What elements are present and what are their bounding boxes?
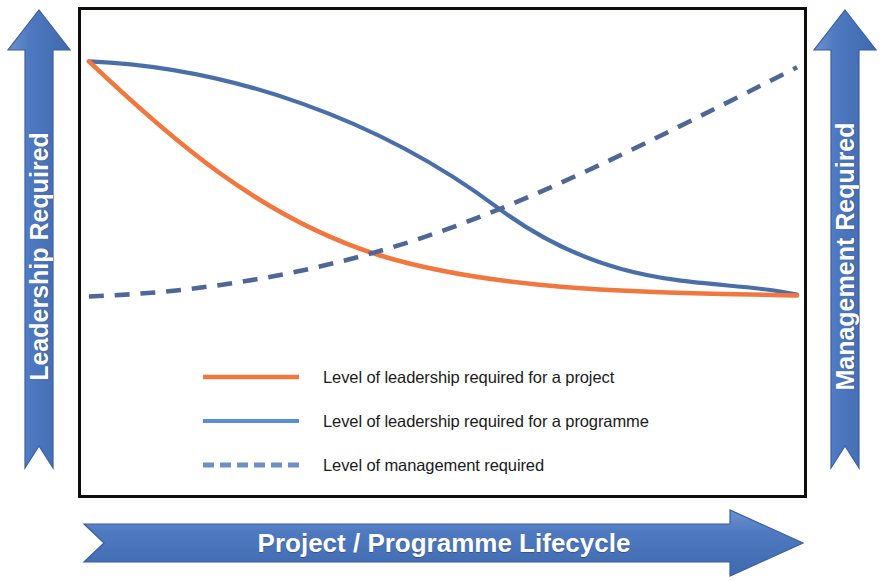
series-line-project [89,61,797,295]
legend-item: Level of leadership required for a progr… [201,399,761,443]
leadership-axis-arrow: Leadership Required [6,6,72,506]
legend-label-programme: Level of leadership required for a progr… [323,412,649,431]
plot-area: Level of leadership required for a proje… [78,7,807,498]
figure-root: Leadership Required Management Required [0,0,884,581]
series-line-programme [89,61,797,294]
chart-legend: Level of leadership required for a proje… [201,355,761,487]
lifecycle-axis-arrow: Project / Programme Lifecycle [82,508,806,578]
solid-line-icon [201,370,301,384]
dashed-line-icon [201,458,301,472]
right-arrow-icon [82,508,806,578]
legend-label-project: Level of leadership required for a proje… [323,368,614,387]
up-arrow-icon [812,6,878,506]
solid-line-icon [201,414,301,428]
up-arrow-icon [6,6,72,506]
series-line-management [89,67,797,296]
legend-label-management: Level of management required [323,456,544,475]
legend-item: Level of management required [201,443,761,487]
legend-item: Level of leadership required for a proje… [201,355,761,399]
management-axis-arrow: Management Required [812,6,878,506]
